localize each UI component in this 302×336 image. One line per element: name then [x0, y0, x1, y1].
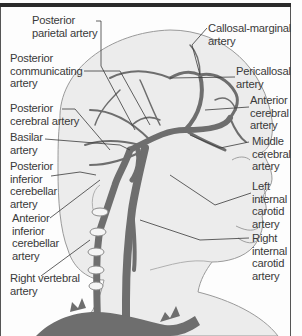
label-anterior-inferior-cerebellar-artery: Anterior inferior cerebellar artery [12, 212, 59, 262]
label-basilar-artery: Basilar artery [10, 131, 43, 156]
label-pericallosal-artery: Pericallosal artery [236, 65, 291, 90]
label-anterior-cerebral-artery: Anterior cerebral artery [250, 94, 289, 132]
label-right-vertebral-artery: Right vertebral artery [10, 272, 80, 297]
label-posterior-communicating-artery: Posterior communicating artery [10, 52, 83, 90]
label-posterior-cerebral-artery: Posterior cerebral artery [10, 102, 79, 127]
diagram-frame: Posterior parietal artery Posterior comm… [0, 0, 302, 336]
label-left-internal-carotid-artery: Left internal carotid artery [252, 180, 287, 230]
label-middle-cerebral-artery: Middle cerebral artery [252, 135, 291, 173]
label-posterior-parietal-artery: Posterior parietal artery [32, 14, 97, 39]
label-callosal-marginal-artery: Callosal-marginal artery [208, 22, 291, 47]
label-right-internal-carotid-artery: Right internal carotid artery [252, 232, 287, 282]
label-posterior-inferior-cerebellar-artery: Posterior inferior cerebellar artery [10, 160, 57, 210]
